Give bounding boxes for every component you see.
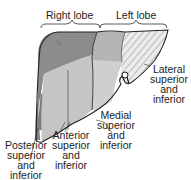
left-lobe-brace — [100, 20, 167, 28]
anterior-label: Anterior superior and inferior — [52, 130, 90, 170]
medial-label: Medial superior and inferior — [97, 110, 135, 150]
left-lobe-header: Left lobe — [116, 10, 156, 20]
right-lobe-header: Right lobe — [46, 10, 93, 20]
lateral-label: Lateral superior and inferior — [150, 64, 188, 104]
posterior-label: Posterior superior and inferior — [5, 140, 47, 180]
right-lobe-brace — [41, 20, 100, 28]
